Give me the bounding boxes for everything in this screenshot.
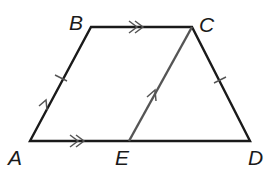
- label-b: B: [69, 12, 83, 33]
- label-a: A: [8, 147, 22, 168]
- label-e: E: [115, 147, 129, 168]
- segment-ec: [129, 27, 192, 141]
- geometry-diagram: B C A E D: [0, 0, 278, 177]
- trapezoid-figure: [0, 0, 278, 177]
- label-d: D: [248, 147, 263, 168]
- arrow-ab-icon: [39, 100, 47, 110]
- label-c: C: [199, 14, 214, 35]
- trapezoid-abcd: [30, 27, 250, 141]
